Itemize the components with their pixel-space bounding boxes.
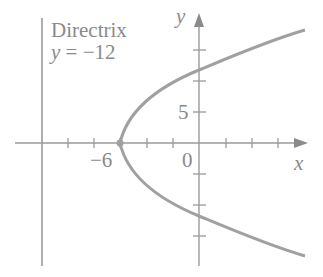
x-axis-arrow-icon: [294, 138, 308, 148]
y-axis-arrow-icon: [194, 13, 204, 27]
x-axis-label: x: [294, 153, 303, 174]
x-tick-label-0: 0: [182, 150, 193, 171]
directrix-equation: y = −12: [51, 42, 116, 63]
y-axis-label: y: [176, 6, 185, 27]
x-tick-label-neg6: −6: [90, 150, 112, 171]
directrix-title: Directrix: [51, 20, 127, 41]
directrix-eq-var: y: [51, 40, 60, 64]
vertex-point: [117, 140, 124, 147]
directrix-eq-rest: = −12: [60, 40, 115, 64]
parabola-plot: [0, 0, 323, 277]
y-tick-label-5: 5: [178, 102, 189, 123]
